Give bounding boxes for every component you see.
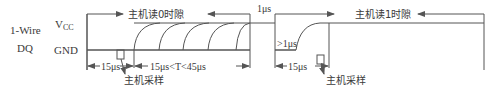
read0-rise-curve-3 xyxy=(183,23,209,50)
read1-title: 主机读1时隙 xyxy=(355,8,411,20)
read1-low-min-label: >1μs xyxy=(277,38,297,49)
vcc-label: VCC xyxy=(55,18,74,32)
read0-sample-box xyxy=(117,50,124,59)
read1-sample-box xyxy=(317,55,324,64)
recovery-gap-label: 1μs xyxy=(257,3,271,14)
read1-rise-curve xyxy=(296,23,320,50)
read1-sample-label: 主机采样 xyxy=(326,74,366,86)
one-wire-read-timing-diagram: 1-Wire DQ VCC GND 主机读0时隙 15μs 15μs<T<45μ… xyxy=(0,0,496,94)
read0-window-label: 15μs<T<45μs xyxy=(150,61,206,72)
read0-rise-curve-5 xyxy=(236,23,250,50)
read1-15us-label: 15μs xyxy=(288,61,307,72)
gnd-label: GND xyxy=(54,44,78,56)
wire-label: 1-Wire xyxy=(10,24,41,36)
read0-sample-label: 主机采样 xyxy=(124,74,164,86)
signal-labels: 1-Wire DQ VCC GND xyxy=(10,18,78,56)
read0-title: 主机读0时隙 xyxy=(128,8,184,20)
dq-label: DQ xyxy=(17,42,33,54)
read0-rise-curve-2 xyxy=(159,23,185,50)
read0-rise-curve-4 xyxy=(208,23,234,50)
read0-15us-label: 15μs xyxy=(101,61,120,72)
read0-rise-curve-1 xyxy=(134,23,160,50)
